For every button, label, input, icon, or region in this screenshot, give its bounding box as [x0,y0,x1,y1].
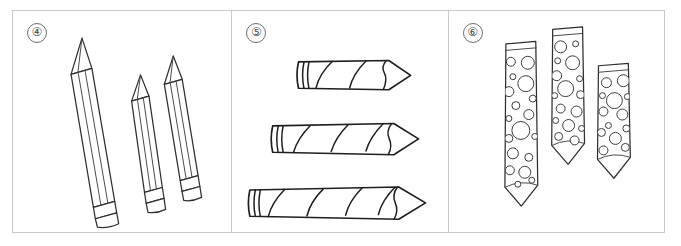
plain-pencils-drawing [13,11,231,232]
figure-root: ④ [0,0,681,246]
long-dotted-pencil [504,41,538,206]
medium-pencil [164,56,201,201]
long-pencil [71,38,119,227]
short-dotted-pencil [597,63,630,178]
short-pencil [132,75,166,213]
panel-striped-crayons: ⑤ [232,11,448,232]
figure-frame: ④ [12,10,665,233]
short-crayon [297,60,411,89]
medium-dotted-pencil [551,27,584,164]
striped-crayons-drawing [232,11,447,232]
medium-crayon [272,123,419,154]
long-crayon [249,187,426,219]
panel-dotted-pencils: ⑥ [449,11,664,232]
panel-plain-pencils: ④ [13,11,232,232]
dotted-pencils-drawing [449,11,664,232]
